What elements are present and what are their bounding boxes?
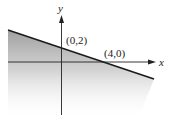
y-axis-arrow-icon [59, 15, 64, 23]
x-axis-arrow-icon [148, 60, 156, 65]
x-axis-label: x [158, 56, 164, 68]
y-axis-label: y [57, 2, 63, 14]
inequality-graph: y x (0,2) (4,0) [0, 0, 171, 120]
point-label-x-intercept: (4,0) [104, 47, 125, 60]
point-label-y-intercept: (0,2) [66, 34, 87, 47]
